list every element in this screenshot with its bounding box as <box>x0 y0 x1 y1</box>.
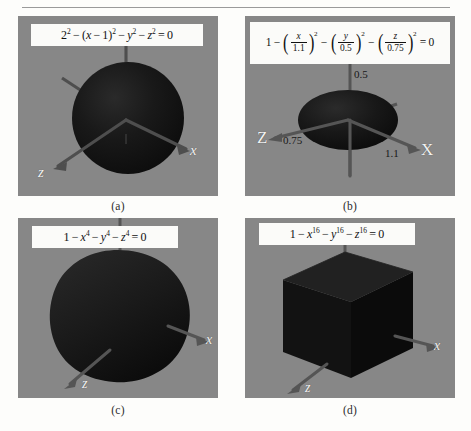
panel-d: x z 1−x16−y16−z16=0 (d) <box>245 218 455 398</box>
panel-a-caption: (a) <box>18 200 218 212</box>
panel-a: x z 22−(x−1)2−y2−z2=0 (a) <box>18 16 218 196</box>
panel-a-axis-label-x: x <box>190 142 197 159</box>
panel-b-axis-label-x: X <box>421 140 433 160</box>
panel-a-axis-label-z: z <box>38 164 44 181</box>
panel-b-caption: (b) <box>245 200 455 212</box>
panel-b-tick-y: 0.5 <box>354 68 368 80</box>
page-top-rule <box>22 7 450 8</box>
panel-b-formula-text: 1−(x1.1)2−(y0.5)2−(z0.75)2=0 <box>266 33 435 54</box>
panel-c: x z 1−x4−y4−z4=0 (c) <box>18 218 218 398</box>
panel-d-axis-label-z: z <box>305 380 310 396</box>
panel-b: X Z 0.5 0.75 1.1 1−(x1.1)2−(y0.5)2−(z0.7… <box>245 16 455 196</box>
figure-page: x z 22−(x−1)2−y2−z2=0 (a) <box>0 0 471 431</box>
panel-d-formula: 1−x16−y16−z16=0 <box>259 223 415 245</box>
panel-a-formula: 22−(x−1)2−y2−z2=0 <box>31 24 203 46</box>
panel-a-canvas: x z 22−(x−1)2−y2−z2=0 <box>18 16 218 196</box>
panel-a-formula-text: 22−(x−1)2−y2−z2=0 <box>61 29 173 41</box>
figure-grid: x z 22−(x−1)2−y2−z2=0 (a) <box>0 14 471 424</box>
panel-b-tick-z: 0.75 <box>283 134 302 146</box>
panel-d-caption: (d) <box>245 404 455 416</box>
panel-d-axis-label-x: x <box>434 338 440 354</box>
panel-b-formula: 1−(x1.1)2−(y0.5)2−(z0.75)2=0 <box>250 22 450 64</box>
panel-d-scene <box>245 218 455 398</box>
panel-c-axis-label-x: x <box>206 332 212 348</box>
panel-d-canvas: x z 1−x16−y16−z16=0 <box>245 218 455 398</box>
panel-c-canvas: x z 1−x4−y4−z4=0 <box>18 218 218 398</box>
panel-c-caption: (c) <box>18 404 218 416</box>
panel-b-axis-label-z: Z <box>257 128 267 148</box>
panel-c-formula-text: 1−x4−y4−z4=0 <box>63 231 146 243</box>
panel-b-tick-x: 1.1 <box>385 147 399 159</box>
panel-b-canvas: X Z 0.5 0.75 1.1 1−(x1.1)2−(y0.5)2−(z0.7… <box>245 16 455 196</box>
panel-c-formula: 1−x4−y4−z4=0 <box>32 226 178 248</box>
panel-d-formula-text: 1−x16−y16−z16=0 <box>290 228 384 240</box>
panel-c-axis-label-z: z <box>82 376 87 392</box>
